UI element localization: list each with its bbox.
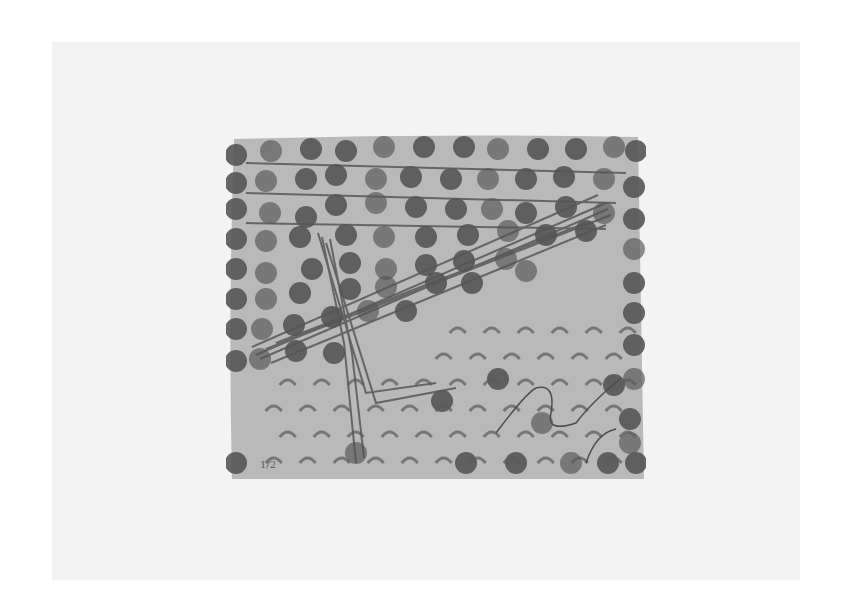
dot-stamp — [365, 192, 387, 214]
dot-stamp — [425, 272, 447, 294]
dot-stamp — [487, 138, 509, 160]
dot-stamp — [226, 288, 247, 310]
dot-stamp — [575, 220, 597, 242]
dot-stamp — [553, 166, 575, 188]
dot-stamp — [405, 196, 427, 218]
dot-stamp — [226, 144, 247, 166]
dot-stamp — [455, 452, 477, 474]
dot-stamp — [555, 196, 577, 218]
dot-stamp — [603, 374, 625, 396]
dot-stamp — [535, 224, 557, 246]
dot-stamp — [395, 300, 417, 322]
dot-stamp — [495, 248, 517, 270]
dot-stamp — [527, 138, 549, 160]
dot-stamp — [255, 230, 277, 252]
dot-stamp — [255, 262, 277, 284]
dot-stamp — [531, 412, 553, 434]
dot-stamp — [625, 140, 646, 162]
dot-stamp — [400, 166, 422, 188]
dot-stamp — [325, 164, 347, 186]
dot-stamp — [226, 258, 247, 280]
dot-stamp — [505, 452, 527, 474]
dot-stamp — [619, 408, 641, 430]
dot-stamp — [295, 206, 317, 228]
dot-stamp — [321, 306, 343, 328]
dot-stamp — [375, 276, 397, 298]
dot-stamp — [413, 136, 435, 158]
dot-stamp — [251, 318, 273, 340]
dot-stamp — [339, 252, 361, 274]
dot-stamp — [226, 350, 247, 372]
dot-stamp — [593, 202, 615, 224]
dot-stamp — [260, 140, 282, 162]
dot-stamp — [515, 202, 537, 224]
dot-stamp — [440, 168, 462, 190]
dot-stamp — [515, 260, 537, 282]
dot-stamp — [335, 140, 357, 162]
dot-stamp — [623, 176, 645, 198]
dot-stamp — [603, 136, 625, 158]
dot-stamp — [560, 452, 582, 474]
dot-stamp — [593, 168, 615, 190]
dot-stamp — [623, 208, 645, 230]
dot-stamp — [453, 250, 475, 272]
artwork-canvas — [226, 133, 646, 481]
gray-field — [230, 135, 644, 479]
dot-stamp — [415, 226, 437, 248]
dot-stamp — [623, 302, 645, 324]
dot-stamp — [365, 168, 387, 190]
dot-stamp — [289, 282, 311, 304]
dot-stamp — [497, 220, 519, 242]
dot-stamp — [625, 452, 646, 474]
dot-stamp — [373, 226, 395, 248]
dot-stamp — [226, 172, 247, 194]
dot-stamp — [226, 452, 247, 474]
artwork-print: 1/2 — [226, 133, 646, 481]
dot-stamp — [457, 224, 479, 246]
dot-stamp — [623, 334, 645, 356]
dot-stamp — [255, 170, 277, 192]
dot-stamp — [255, 288, 277, 310]
dot-stamp — [623, 238, 645, 260]
dot-stamp — [285, 340, 307, 362]
dot-stamp — [565, 138, 587, 160]
dot-stamp — [301, 258, 323, 280]
dot-stamp — [445, 198, 467, 220]
dot-stamp — [481, 198, 503, 220]
dot-stamp — [226, 198, 247, 220]
dot-stamp — [325, 194, 347, 216]
dot-stamp — [226, 318, 247, 340]
dot-stamp — [597, 452, 619, 474]
dot-stamp — [477, 168, 499, 190]
dot-stamp — [226, 228, 247, 250]
dot-stamp — [373, 136, 395, 158]
dot-stamp — [289, 226, 311, 248]
dot-stamp — [283, 314, 305, 336]
dot-stamp — [249, 348, 271, 370]
dot-stamp — [357, 300, 379, 322]
dot-stamp — [323, 342, 345, 364]
dot-stamp — [335, 224, 357, 246]
dot-stamp — [623, 272, 645, 294]
dot-stamp — [295, 168, 317, 190]
dot-stamp — [259, 202, 281, 224]
dot-stamp — [515, 168, 537, 190]
dot-stamp — [453, 136, 475, 158]
dot-stamp — [461, 272, 483, 294]
dot-stamp — [300, 138, 322, 160]
edition-inscription: 1/2 — [260, 459, 276, 470]
dot-stamp — [339, 278, 361, 300]
